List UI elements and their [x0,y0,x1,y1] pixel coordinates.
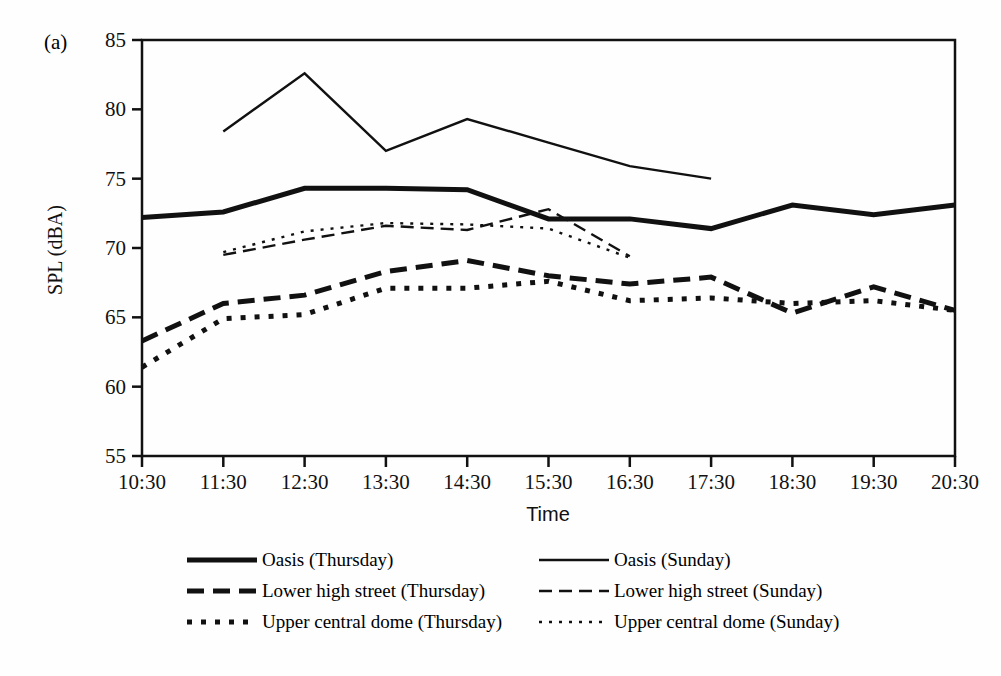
y-axis-tick-label: 60 [105,375,126,399]
data-series-group [142,73,955,367]
y-axis-tick-label: 70 [105,236,126,260]
legend-row: Upper central dome (Thursday)Upper centr… [186,606,886,637]
x-axis-tick-label: 16:30 [606,470,654,494]
y-axis-tick-label: 80 [105,97,126,121]
x-axis-tick-label: 12:30 [281,470,329,494]
y-axis-ticks: 55606570758085 [105,28,142,468]
legend-item[interactable]: Lower high street (Sunday) [538,581,822,600]
y-axis-label: SPL (dBA) [44,205,67,295]
legend-label: Oasis (Sunday) [614,550,731,569]
x-axis-tick-label: 19:30 [850,470,898,494]
x-axis-tick-label: 10:30 [118,470,166,494]
x-axis-ticks: 10:3011:3012:3013:3014:3015:3016:3017:30… [118,456,979,494]
legend-label: Oasis (Thursday) [262,550,393,569]
legend-item[interactable]: Oasis (Thursday) [186,550,538,569]
legend-label: Upper central dome (Sunday) [614,612,839,631]
legend-item[interactable]: Lower high street (Thursday) [186,581,538,600]
x-axis-tick-label: 20:30 [931,470,979,494]
figure-panel: (a) 55606570758085 10:3011:3012:3013:301… [0,0,1001,676]
y-axis-tick-label: 85 [105,28,126,52]
legend-swatch-solid-thick-icon [186,553,258,567]
legend-row: Oasis (Thursday)Oasis (Sunday) [186,544,886,575]
x-axis-tick-label: 14:30 [443,470,491,494]
chart-legend: Oasis (Thursday)Oasis (Sunday)Lower high… [186,544,886,637]
series-line-2 [142,260,955,340]
series-line-1 [223,73,711,178]
series-line-4 [142,281,955,367]
x-axis-tick-label: 17:30 [687,470,735,494]
y-axis-tick-label: 65 [105,305,126,329]
x-axis-tick-label: 11:30 [200,470,247,494]
legend-row: Lower high street (Thursday)Lower high s… [186,575,886,606]
legend-label: Lower high street (Thursday) [262,581,485,600]
legend-item[interactable]: Oasis (Sunday) [538,550,731,569]
legend-label: Lower high street (Sunday) [614,581,822,600]
x-axis-tick-label: 18:30 [768,470,816,494]
x-axis-tick-label: 15:30 [525,470,573,494]
series-line-3 [223,209,630,256]
legend-swatch-dashed-thin-icon [538,584,610,598]
x-axis-label: Time [526,503,570,525]
x-axis-tick-label: 13:30 [362,470,410,494]
y-axis-tick-label: 75 [105,167,126,191]
legend-label: Upper central dome (Thursday) [262,612,502,631]
legend-swatch-dotted-thick-icon [186,615,258,629]
y-axis-tick-label: 55 [105,444,126,468]
legend-item[interactable]: Upper central dome (Thursday) [186,612,538,631]
legend-swatch-dotted-thin-icon [538,615,610,629]
legend-item[interactable]: Upper central dome (Sunday) [538,612,839,631]
legend-swatch-solid-thin-icon [538,553,610,567]
legend-swatch-dashed-thick-icon [186,584,258,598]
